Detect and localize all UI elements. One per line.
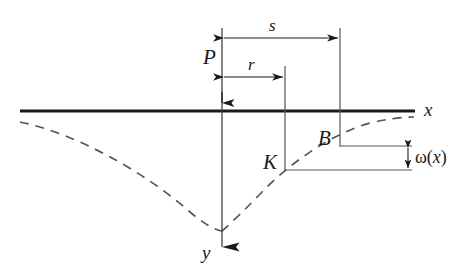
omega-symbol: ω( <box>415 147 433 167</box>
dashed-deflection-curve <box>20 117 414 231</box>
label-axis-x: x <box>424 100 432 119</box>
label-axis-y: y <box>202 243 210 262</box>
label-point-B: B <box>318 128 331 149</box>
label-deflection-omega: ω(x) <box>415 148 447 166</box>
label-point-K: K <box>263 152 277 173</box>
label-distance-s: s <box>269 17 276 34</box>
omega-paren-close: ) <box>441 147 447 167</box>
beam-deflection-diagram: P s r x y B K ω(x) <box>0 0 474 278</box>
label-load-P: P <box>203 47 216 68</box>
omega-variable: x <box>433 147 441 167</box>
label-distance-r: r <box>248 56 255 73</box>
diagram-canvas <box>0 0 474 278</box>
